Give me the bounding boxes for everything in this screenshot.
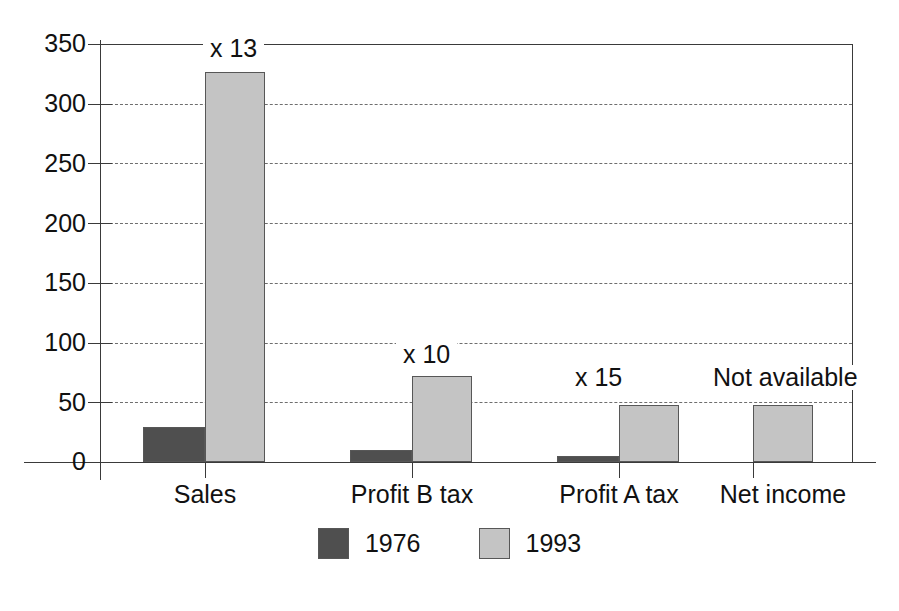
- y-axis-labels: 350 300 250 200 150 100 50 0: [8, 0, 86, 611]
- y-tick-mark-250: [88, 163, 112, 164]
- bar-profit-b-tax-1976: [350, 450, 412, 462]
- y-tick-label-0: 0: [16, 449, 86, 474]
- bar-profit-b-tax-1993: [412, 376, 472, 462]
- y-tick-mark-200: [88, 223, 112, 224]
- y-tick-label-350: 350: [16, 31, 86, 56]
- x-axis-line: [24, 462, 876, 463]
- y-tick-mark-300: [88, 104, 112, 105]
- annotation-net-income-not-available: Not available: [706, 365, 865, 390]
- y-tick-mark-350: [88, 44, 112, 45]
- y-tick-mark-150: [88, 283, 112, 284]
- legend-swatch-1976: [318, 528, 349, 559]
- y-tick-mark-100: [88, 343, 112, 344]
- y-tick-label-250: 250: [16, 151, 86, 176]
- y-axis-line: [100, 40, 101, 480]
- bar-sales-1976: [143, 427, 205, 462]
- annotation-profit-b-tax-multiplier: x 10: [396, 342, 457, 367]
- y-tick-label-100: 100: [16, 330, 86, 355]
- y-tick-label-200: 200: [16, 211, 86, 236]
- y-tick-label-150: 150: [16, 270, 86, 295]
- y-tick-label-300: 300: [16, 91, 86, 116]
- x-tick-mark-sales: [205, 462, 206, 478]
- annotation-profit-a-tax-multiplier: x 15: [568, 365, 629, 390]
- plot-right-border: [852, 44, 853, 462]
- legend-label-1976: 1976: [365, 531, 421, 556]
- y-tick-label-50: 50: [16, 390, 86, 415]
- legend-swatch-1993: [479, 528, 510, 559]
- x-category-label-sales: Sales: [174, 480, 237, 508]
- bar-profit-a-tax-1993: [619, 405, 679, 462]
- bar-chart: 350 300 250 200 150 100 50 0 x 13 x 10 x…: [0, 0, 899, 611]
- x-category-label-net-income: Net income: [720, 480, 846, 508]
- legend-entry-1976: 1976: [318, 528, 421, 559]
- bar-sales-1993: [205, 72, 265, 462]
- x-category-label-profit-a-tax: Profit A tax: [559, 480, 679, 508]
- chart-legend: 1976 1993: [0, 528, 899, 559]
- legend-label-1993: 1993: [526, 531, 582, 556]
- annotation-sales-multiplier: x 13: [203, 36, 264, 61]
- plot-area: [100, 44, 852, 462]
- x-tick-mark-profit-a-tax: [619, 462, 620, 478]
- bar-net-income-1993: [753, 405, 813, 462]
- legend-entry-1993: 1993: [479, 528, 582, 559]
- x-category-label-profit-b-tax: Profit B tax: [351, 480, 473, 508]
- x-tick-mark-profit-b-tax: [412, 462, 413, 478]
- y-tick-mark-0: [88, 462, 112, 463]
- x-tick-mark-net-income: [753, 462, 754, 478]
- y-tick-mark-50: [88, 402, 112, 403]
